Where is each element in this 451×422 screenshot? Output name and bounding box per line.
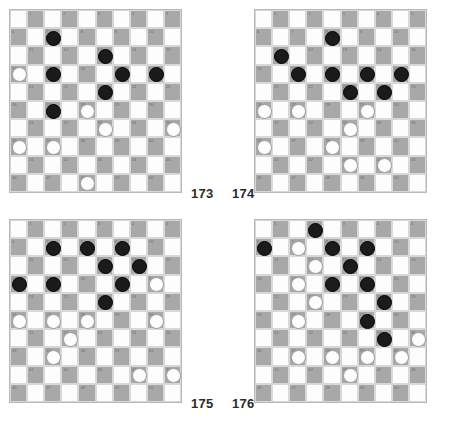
board-square-4[interactable]: 4 [375,220,392,238]
board-square-light[interactable] [323,220,340,238]
board-square-22[interactable]: 22 [61,293,78,311]
board-square-22[interactable]: 22 [61,83,78,101]
board-square-light[interactable] [96,101,113,119]
board-square-35[interactable]: 35 [409,329,426,347]
board-square-48[interactable]: 48 [78,384,95,402]
board-square-39[interactable]: 39 [358,347,375,365]
board-square-27[interactable]: 27 [44,101,61,119]
board-square-light[interactable] [255,220,272,238]
board-square-36[interactable]: 36 [255,137,272,155]
black-piece[interactable] [343,259,358,274]
board-square-23[interactable]: 23 [341,83,358,101]
board-square-21[interactable]: 21 [272,83,289,101]
black-piece[interactable] [46,277,61,292]
board-square-light[interactable] [323,293,340,311]
board-square-light[interactable] [358,83,375,101]
board-square-47[interactable]: 47 [289,174,306,192]
black-piece[interactable] [325,31,340,46]
board-square-light[interactable] [130,28,147,46]
board-square-27[interactable]: 27 [289,311,306,329]
board-square-48[interactable]: 48 [323,174,340,192]
board-square-light[interactable] [289,156,306,174]
board-square-30[interactable]: 30 [392,311,409,329]
board-square-light[interactable] [10,119,27,137]
board-square-light[interactable] [61,137,78,155]
board-square-17[interactable]: 17 [289,65,306,83]
board-square-light[interactable] [147,366,164,384]
board-square-light[interactable] [78,46,95,64]
board-square-32[interactable]: 32 [61,119,78,137]
board-square-light[interactable] [341,65,358,83]
board-square-31[interactable]: 31 [272,119,289,137]
board-square-light[interactable] [341,174,358,192]
board-square-27[interactable]: 27 [44,311,61,329]
board-square-light[interactable] [78,366,95,384]
board-square-7[interactable]: 7 [289,28,306,46]
board-square-33[interactable]: 33 [341,329,358,347]
board-square-50[interactable]: 50 [147,174,164,192]
white-piece[interactable] [80,314,95,329]
board-square-20[interactable]: 20 [392,65,409,83]
board-square-9[interactable]: 9 [113,238,130,256]
white-piece[interactable] [291,350,306,365]
board-square-light[interactable] [375,65,392,83]
board-square-light[interactable] [375,28,392,46]
board-square-13[interactable]: 13 [341,256,358,274]
board-square-light[interactable] [147,119,164,137]
board-square-31[interactable]: 31 [27,329,44,347]
board-square-light[interactable] [255,366,272,384]
board-square-3[interactable]: 3 [341,220,358,238]
board-square-light[interactable] [147,83,164,101]
white-piece[interactable] [377,158,392,173]
board-square-light[interactable] [272,347,289,365]
white-piece[interactable] [308,259,323,274]
board-square-5[interactable]: 5 [164,10,181,28]
board-square-light[interactable] [409,275,426,293]
black-piece[interactable] [325,67,340,82]
board-square-light[interactable] [44,10,61,28]
white-piece[interactable] [149,277,164,292]
board-square-45[interactable]: 45 [164,366,181,384]
board-square-light[interactable] [61,101,78,119]
board-square-light[interactable] [272,65,289,83]
board-square-light[interactable] [323,83,340,101]
board-square-35[interactable]: 35 [409,119,426,137]
white-piece[interactable] [343,122,358,137]
black-piece[interactable] [80,241,95,256]
board-square-light[interactable] [113,10,130,28]
board-square-light[interactable] [78,156,95,174]
white-piece[interactable] [291,277,306,292]
board-square-light[interactable] [323,119,340,137]
black-piece[interactable] [325,277,340,292]
board-square-32[interactable]: 32 [61,329,78,347]
board-square-33[interactable]: 33 [96,329,113,347]
board-square-light[interactable] [289,256,306,274]
board-square-light[interactable] [409,311,426,329]
board-square-light[interactable] [392,329,409,347]
board-square-light[interactable] [255,256,272,274]
board-square-light[interactable] [164,174,181,192]
board-square-42[interactable]: 42 [306,156,323,174]
board-square-8[interactable]: 8 [78,28,95,46]
board-square-light[interactable] [78,10,95,28]
board-square-light[interactable] [164,137,181,155]
board-square-light[interactable] [306,174,323,192]
board-square-20[interactable]: 20 [392,275,409,293]
board-square-9[interactable]: 9 [113,28,130,46]
board-square-light[interactable] [375,174,392,192]
board-square-43[interactable]: 43 [341,156,358,174]
white-piece[interactable] [80,104,95,119]
board-square-light[interactable] [306,101,323,119]
board-square-1[interactable]: 1 [272,10,289,28]
white-piece[interactable] [257,104,272,119]
board-square-7[interactable]: 7 [44,28,61,46]
board-square-13[interactable]: 13 [96,46,113,64]
black-piece[interactable] [377,295,392,310]
board-square-light[interactable] [255,10,272,28]
board-square-light[interactable] [96,28,113,46]
board-square-26[interactable]: 26 [10,101,27,119]
board-square-34[interactable]: 34 [375,119,392,137]
board-square-12[interactable]: 12 [61,256,78,274]
board-square-light[interactable] [323,156,340,174]
board-square-light[interactable] [289,293,306,311]
